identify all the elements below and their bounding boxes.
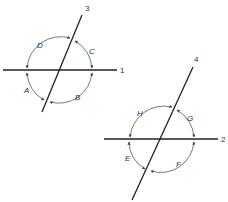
angle-label-F: F — [176, 160, 182, 169]
angle-label-C: C — [89, 47, 95, 56]
angle-label-H: H — [137, 109, 143, 118]
angle-arc-A — [27, 73, 44, 100]
line-label-3: 3 — [85, 4, 90, 13]
line-label-1: 1 — [120, 66, 125, 75]
angle-arc-D — [27, 37, 70, 68]
angle-arc-E — [129, 142, 145, 169]
line-label-4: 4 — [194, 55, 199, 64]
line-4 — [132, 67, 193, 200]
angle-label-A: A — [23, 86, 29, 95]
figure-2: 24GHEF — [104, 55, 226, 200]
figure-1: 13CDAB — [3, 4, 125, 112]
intersecting-lines-diagram: 13CDAB24GHEF — [0, 0, 228, 202]
angle-label-E: E — [125, 154, 131, 163]
angle-arc-F — [151, 142, 194, 173]
line-label-2: 2 — [221, 135, 226, 144]
angle-label-G: G — [187, 114, 193, 123]
angle-label-D: D — [37, 41, 43, 50]
angle-label-B: B — [75, 93, 81, 102]
